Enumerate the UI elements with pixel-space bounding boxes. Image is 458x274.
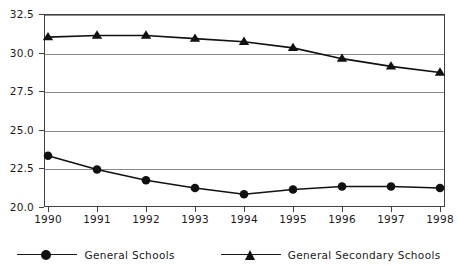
x-tick-mark bbox=[244, 207, 245, 212]
y-tick-mark bbox=[39, 53, 44, 54]
y-tick-mark bbox=[39, 207, 44, 208]
legend-label: General Secondary Schools bbox=[288, 249, 441, 261]
x-tick-mark bbox=[48, 207, 49, 212]
x-tick-label: 1990 bbox=[34, 213, 62, 225]
y-tick-label: 30.0 bbox=[10, 47, 34, 59]
gridline bbox=[45, 169, 444, 170]
x-tick-label: 1996 bbox=[328, 213, 356, 225]
line-chart: 32.5 30.0 27.5 25.0 22.5 20.0 1990 1991 … bbox=[0, 0, 458, 274]
circle-marker-icon bbox=[17, 249, 77, 261]
x-tick-label: 1993 bbox=[181, 213, 209, 225]
y-tick-mark bbox=[39, 130, 44, 131]
y-tick-label: 25.0 bbox=[10, 124, 34, 136]
x-tick-mark bbox=[293, 207, 294, 212]
x-tick-mark bbox=[146, 207, 147, 212]
x-tick-mark bbox=[97, 207, 98, 212]
legend-item-general-secondary-schools: General Secondary Schools bbox=[221, 249, 441, 261]
y-tick-label: 20.0 bbox=[10, 201, 34, 213]
legend: General Schools General Secondary School… bbox=[0, 243, 458, 267]
y-tick-label: 32.5 bbox=[10, 8, 34, 20]
x-tick-mark bbox=[440, 207, 441, 212]
gridline bbox=[45, 54, 444, 55]
x-tick-mark bbox=[342, 207, 343, 212]
y-tick-mark bbox=[39, 91, 44, 92]
x-tick-label: 1995 bbox=[279, 213, 307, 225]
gridline bbox=[45, 15, 444, 16]
triangle-marker-icon bbox=[221, 249, 281, 261]
gridline bbox=[45, 92, 444, 93]
legend-label: General Schools bbox=[84, 249, 174, 261]
y-tick-label: 27.5 bbox=[10, 85, 34, 97]
x-tick-label: 1991 bbox=[83, 213, 111, 225]
x-tick-label: 1992 bbox=[132, 213, 160, 225]
x-tick-mark bbox=[391, 207, 392, 212]
plot-area bbox=[44, 14, 445, 207]
gridline bbox=[45, 131, 444, 132]
y-axis: 32.5 30.0 27.5 25.0 22.5 20.0 bbox=[0, 0, 40, 274]
x-tick-mark bbox=[195, 207, 196, 212]
y-tick-mark bbox=[39, 14, 44, 15]
y-tick-label: 22.5 bbox=[10, 162, 34, 174]
x-tick-label: 1998 bbox=[426, 213, 454, 225]
legend-item-general-schools: General Schools bbox=[17, 249, 174, 261]
x-tick-label: 1994 bbox=[230, 213, 258, 225]
y-tick-mark bbox=[39, 168, 44, 169]
x-tick-label: 1997 bbox=[377, 213, 405, 225]
